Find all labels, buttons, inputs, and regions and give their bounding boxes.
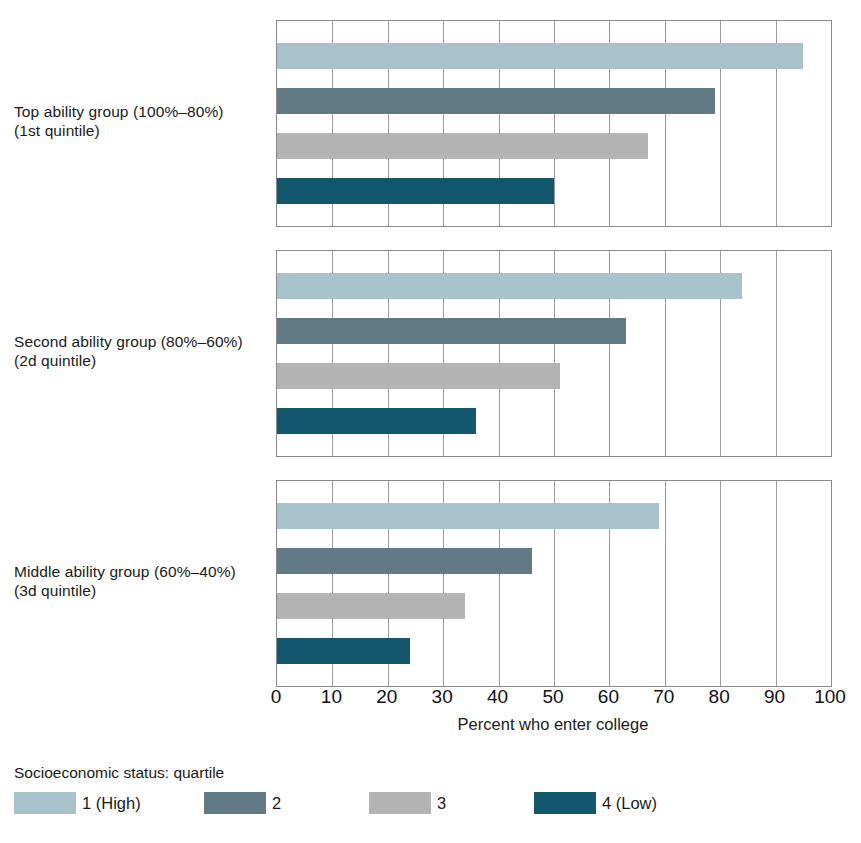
bar [277,503,659,529]
x-tick-label: 90 [764,686,785,708]
plot-area [276,20,832,227]
bar-group [277,21,831,226]
legend-label: 1 (High) [82,794,141,813]
x-tick-label: 40 [487,686,508,708]
college-entry-bar-chart: Top ability group (100%–80%)(1st quintil… [0,0,861,843]
legend-swatch [14,792,76,814]
x-tick-label: 30 [432,686,453,708]
x-tick-label: 70 [653,686,674,708]
x-tick-label: 60 [598,686,619,708]
x-tick-label: 20 [376,686,397,708]
legend-title: Socioeconomic status: quartile [14,764,224,782]
bar [277,133,648,159]
bar [277,638,410,664]
x-axis-ticks: 0102030405060708090100 [276,686,830,712]
bar [277,363,560,389]
x-tick-label: 100 [814,686,846,708]
panel-label-line-1: Top ability group (100%–80%) [14,103,224,120]
bar [277,43,803,69]
bar [277,178,554,204]
legend-item[interactable]: 3 [369,790,446,816]
bar [277,408,476,434]
legend-label: 4 (Low) [602,794,657,813]
legend-label: 3 [437,794,446,813]
panel-label-line-1: Second ability group (80%–60%) [14,333,243,350]
panel-label: Top ability group (100%–80%)(1st quintil… [14,102,269,140]
legend-item[interactable]: 4 (Low) [534,790,657,816]
legend-label: 2 [272,794,281,813]
legend-swatch [369,792,431,814]
bar-group [277,481,831,686]
x-tick-label: 50 [542,686,563,708]
bar-group [277,251,831,456]
bar [277,548,532,574]
panel-label-line-2: (2d quintile) [14,351,269,370]
x-tick-label: 80 [709,686,730,708]
bar [277,593,465,619]
legend-swatch [534,792,596,814]
bar [277,273,742,299]
bar [277,318,626,344]
panel-label-line-2: (3d quintile) [14,581,269,600]
legend-item[interactable]: 1 (High) [14,790,141,816]
panel-label: Middle ability group (60%–40%)(3d quinti… [14,562,269,600]
plot-area [276,250,832,457]
plot-area [276,480,832,687]
legend-swatch [204,792,266,814]
panel-label-line-2: (1st quintile) [14,121,269,140]
legend: 1 (High)234 (Low) [14,790,654,820]
bar [277,88,715,114]
panel-label: Second ability group (80%–60%)(2d quinti… [14,332,269,370]
x-axis-title: Percent who enter college [276,715,830,734]
legend-item[interactable]: 2 [204,790,281,816]
x-tick-label: 0 [271,686,282,708]
x-tick-label: 10 [321,686,342,708]
panel-label-line-1: Middle ability group (60%–40%) [14,563,236,580]
